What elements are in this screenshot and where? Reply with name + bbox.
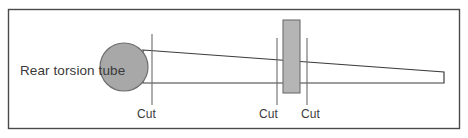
bracket-block [283, 20, 300, 93]
cut-label-1: Cut [137, 107, 157, 121]
cut-label-3: Cut [301, 107, 321, 121]
rear-torsion-tube-label: Rear torsion tube [20, 63, 125, 78]
torsion-tube-diagram: Rear torsion tube Cut Cut Cut [0, 0, 468, 138]
cut-label-2: Cut [259, 107, 279, 121]
diagram-canvas: Rear torsion tube Cut Cut Cut [0, 0, 468, 138]
